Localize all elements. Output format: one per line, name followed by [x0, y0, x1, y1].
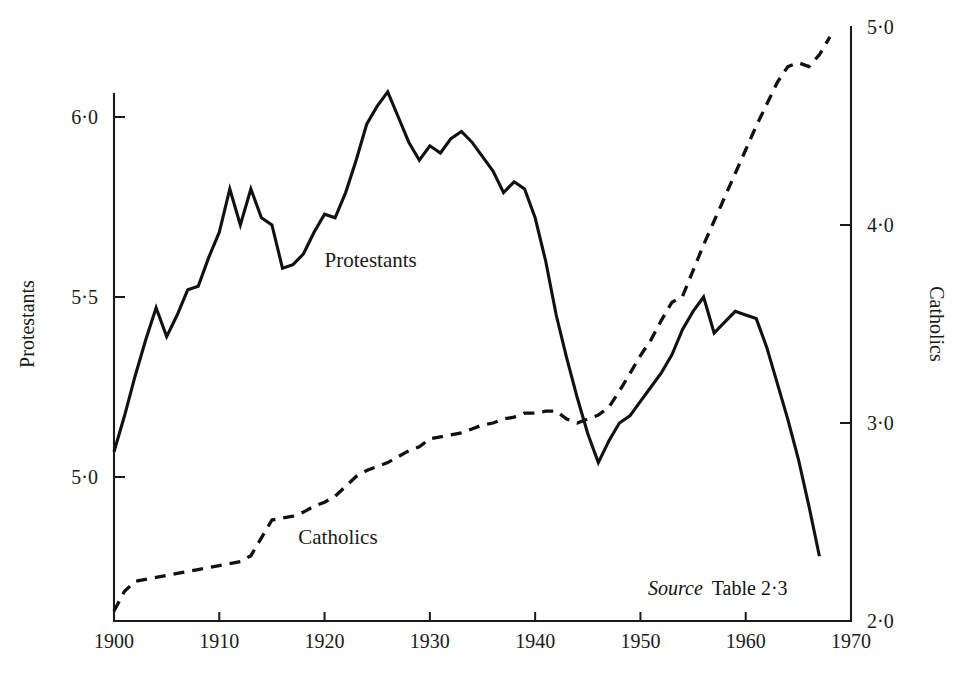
x-tick-label: 1900 — [94, 630, 134, 652]
x-tick-label: 1970 — [831, 630, 871, 652]
chart-series-group — [114, 37, 830, 611]
y-axis-title-left: Protestants — [16, 280, 38, 368]
y-tick-label-left: 5·0 — [71, 466, 98, 488]
chart-figure: 190019101920193019401950196019705·05·56·… — [0, 0, 960, 673]
x-tick-label: 1930 — [410, 630, 450, 652]
y-tick-label-right: 4·0 — [867, 214, 894, 236]
y-tick-label-left: 6·0 — [71, 106, 98, 128]
source-note-reference: Table 2·3 — [712, 577, 788, 599]
line-chart: 190019101920193019401950196019705·05·56·… — [0, 0, 960, 673]
y-axis-title-right: Catholics — [926, 286, 948, 362]
left-and-bottom-axis — [114, 94, 851, 621]
y-tick-label-right: 2·0 — [867, 610, 894, 632]
x-tick-label: 1940 — [515, 630, 555, 652]
chart-tick-marks — [114, 117, 851, 621]
source-note-prefix: Source — [648, 577, 703, 599]
source-note: SourceTable 2·3 — [648, 578, 788, 598]
x-tick-label: 1950 — [620, 630, 660, 652]
series-label-catholics: Catholics — [298, 525, 377, 549]
series-line-protestants — [114, 92, 819, 556]
chart-text-labels: 190019101920193019401950196019705·05·56·… — [16, 16, 948, 652]
y-tick-label-left: 5·5 — [71, 286, 98, 308]
y-tick-label-right: 5·0 — [867, 16, 894, 38]
chart-axes — [114, 27, 851, 621]
x-tick-label: 1920 — [305, 630, 345, 652]
x-tick-label: 1910 — [199, 630, 239, 652]
x-tick-label: 1960 — [726, 630, 766, 652]
series-label-protestants: Protestants — [325, 248, 417, 272]
y-tick-label-right: 3·0 — [867, 412, 894, 434]
